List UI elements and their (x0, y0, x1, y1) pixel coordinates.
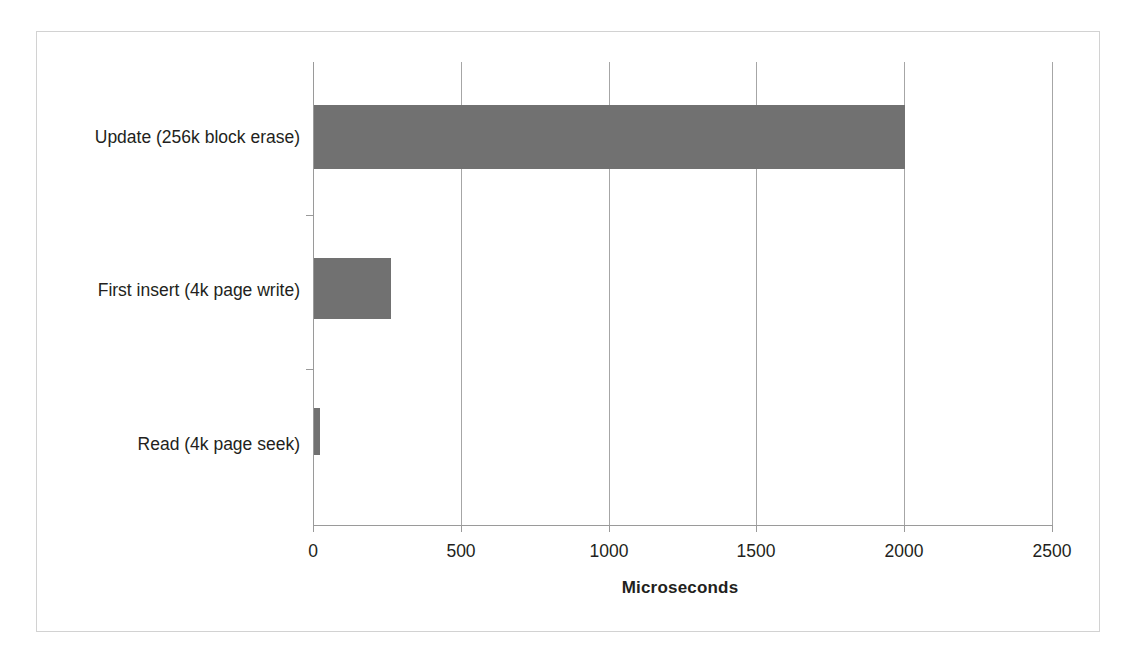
bar-read-4k-page-seek[interactable] (314, 408, 320, 455)
x-axis-title: Microseconds (0, 578, 1130, 598)
x-tick-1000 (609, 525, 610, 532)
x-tick-label-1500: 1500 (737, 543, 776, 561)
y-tick-upper (306, 215, 314, 216)
x-tick-label-500: 500 (446, 543, 475, 561)
x-tick-label-0: 0 (308, 543, 318, 561)
x-tick-0 (313, 525, 314, 532)
x-tick-2000 (904, 525, 905, 532)
category-label-first-insert: First insert (4k page write) (98, 282, 300, 300)
x-tick-label-2500: 2500 (1033, 543, 1072, 561)
x-axis-title-text: Microseconds (622, 578, 739, 597)
category-label-update: Update (256k block erase) (95, 129, 300, 147)
bar-first-insert-4k-page-write[interactable] (314, 258, 391, 319)
x-tick-2500 (1052, 525, 1053, 532)
category-axis-labels: Update (256k block erase) First insert (… (0, 0, 300, 669)
x-tick-500 (461, 525, 462, 532)
chart-screenshot: Update (256k block erase) First insert (… (0, 0, 1130, 669)
gridline-2500 (1052, 62, 1053, 525)
x-tick-label-2000: 2000 (885, 543, 924, 561)
x-axis-baseline (313, 525, 1053, 526)
bar-update-256k-block-erase[interactable] (314, 105, 905, 169)
category-label-read: Read (4k page seek) (138, 436, 300, 454)
x-tick-1500 (756, 525, 757, 532)
plot-area (313, 62, 1052, 525)
x-tick-label-1000: 1000 (590, 543, 629, 561)
y-tick-lower (306, 369, 314, 370)
